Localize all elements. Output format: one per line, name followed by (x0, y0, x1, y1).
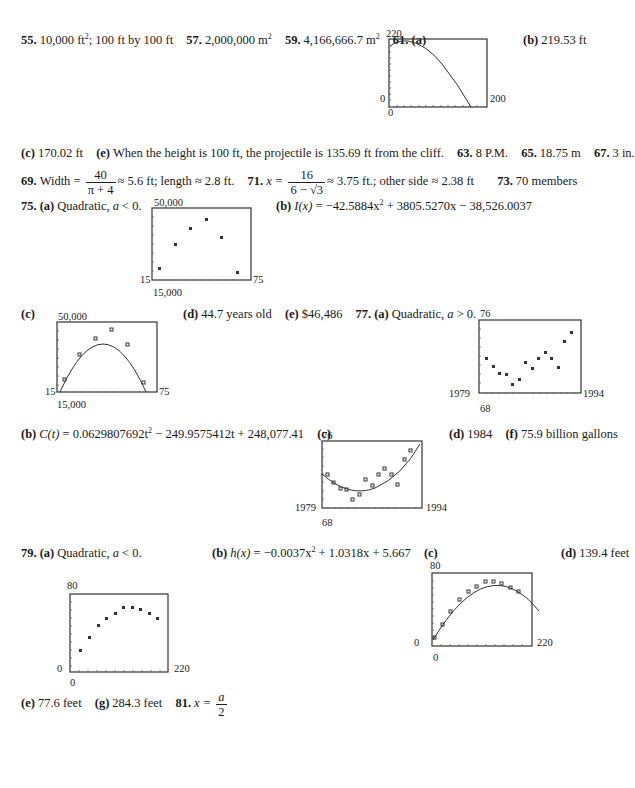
answer-row-55-61: 55.10,000 ft2; 100 ft by 100 ft 57.2,000… (21, 33, 426, 47)
answer-77d-f: (d)1984 (f)75.9 billion gallons (449, 427, 618, 441)
chart-77a-scatter: 76 1979 1994 68 (455, 308, 625, 418)
answer-77b: (b)C(t) = 0.0629807692t2 − 249.9575412t … (21, 427, 331, 441)
problem-number: 63. (457, 146, 473, 160)
answer-row-79e-81: (e)77.6 feet (g)284.3 feet 81.x = a2 (21, 688, 229, 719)
problem-number: 59. (285, 33, 301, 47)
chart-75a-scatter: 50,000 15 75 15,000 (140, 197, 270, 297)
fraction: 166 − √3 (288, 168, 325, 197)
answer-75b: (b)I(x) = −42.5884x2 + 3805.5270x − 38,5… (276, 199, 532, 213)
problem-number: 79. (21, 546, 37, 560)
problem-number: 81. (175, 696, 191, 710)
problem-number: 67. (594, 146, 610, 160)
problem-number: 73. (497, 174, 513, 188)
answer-79b-c: (b)h(x) = −0.0037x2 + 1.0318x + 5.667 (c… (212, 546, 438, 560)
answer-79d: (d)139.4 feet (561, 546, 629, 560)
answer-75c-label: (c) (21, 307, 35, 321)
chart-77c-scatter-fit: 76 1979 1994 68 (297, 428, 467, 538)
fraction: a2 (216, 690, 226, 719)
answer-61b: (b)219.53 ft (523, 33, 586, 47)
problem-number: 77. (356, 307, 372, 321)
chart-75c-scatter-fit: 50,000 15 75 15,000 (45, 311, 175, 411)
chart-61a-projectile: 220 0 200 0 (386, 28, 516, 123)
answer-75a: 75.(a)Quadratic, a < 0. (21, 199, 142, 213)
answer-row-69-73: 69.Width = 40π + 4≈ 5.6 ft; length ≈ 2.8… (21, 166, 577, 197)
fraction: 40π + 4 (86, 168, 116, 197)
answer-79a: 79.(a)Quadratic, a < 0. (21, 546, 142, 560)
problem-number: 69. (21, 174, 37, 188)
chart-79c-scatter-fit: 80 0 220 0 (420, 560, 570, 670)
problem-number: 71. (248, 174, 264, 188)
answer-75d-e: (d)44.7 years old (e)$46,486 77.(a)Quadr… (183, 307, 476, 321)
problem-number: 65. (521, 146, 537, 160)
problem-number: 55. (21, 33, 37, 47)
chart-79a-scatter: 80 0 220 0 (60, 580, 210, 690)
answer-row-61c-67: (c)170.02 ft (e)When the height is 100 f… (21, 146, 635, 160)
problem-number: 75. (21, 199, 37, 213)
problem-number: 57. (186, 33, 202, 47)
